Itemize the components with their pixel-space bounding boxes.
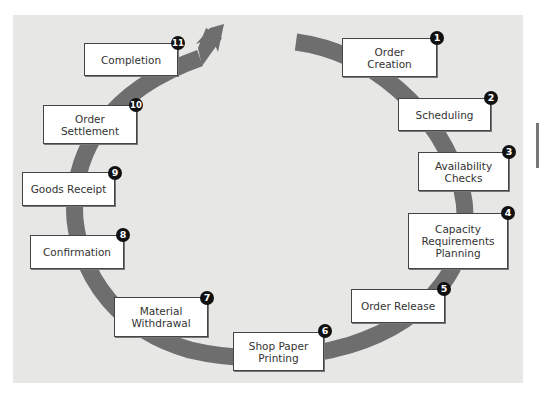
step-confirmation: Confirmation <box>30 235 124 269</box>
step-number-badge: 5 <box>437 282 451 296</box>
step-number-badge: 10 <box>129 98 143 112</box>
step-availability-checks: Availability Checks <box>418 152 509 191</box>
step-label: Completion <box>101 54 161 66</box>
step-material-withdrawal: Material Withdrawal <box>114 297 208 337</box>
step-shop-paper-printing: Shop Paper Printing <box>233 332 324 371</box>
step-number-badge: 1 <box>430 31 444 45</box>
step-number-badge: 7 <box>200 291 214 305</box>
step-label: Scheduling <box>415 109 473 121</box>
step-order-settlement: Order Settlement <box>43 105 137 144</box>
step-number-badge: 6 <box>318 324 332 338</box>
step-label: Material Withdrawal <box>131 305 190 329</box>
step-label: Availability Checks <box>435 160 492 184</box>
step-number-badge: 8 <box>116 228 130 242</box>
step-completion: Completion <box>84 43 178 76</box>
step-goods-receipt: Goods Receipt <box>22 172 115 206</box>
step-label: Capacity Requirements Planning <box>422 223 495 259</box>
step-label: Shop Paper Printing <box>249 340 308 364</box>
step-scheduling: Scheduling <box>398 98 491 131</box>
step-number-badge: 4 <box>501 206 515 220</box>
step-number-badge: 11 <box>171 36 185 50</box>
step-order-release: Order Release <box>351 289 445 323</box>
step-label: Order Release <box>361 300 435 312</box>
step-number-badge: 3 <box>502 145 516 159</box>
step-number-badge: 9 <box>108 166 122 180</box>
step-label: Goods Receipt <box>31 183 107 195</box>
step-number-badge: 2 <box>484 91 498 105</box>
step-label: Order Settlement <box>61 113 119 137</box>
step-label: Confirmation <box>43 246 111 258</box>
step-order-creation: Order Creation <box>342 38 437 77</box>
step-capacity-requirements-planning: Capacity Requirements Planning <box>408 213 508 269</box>
step-label: Order Creation <box>367 46 411 70</box>
